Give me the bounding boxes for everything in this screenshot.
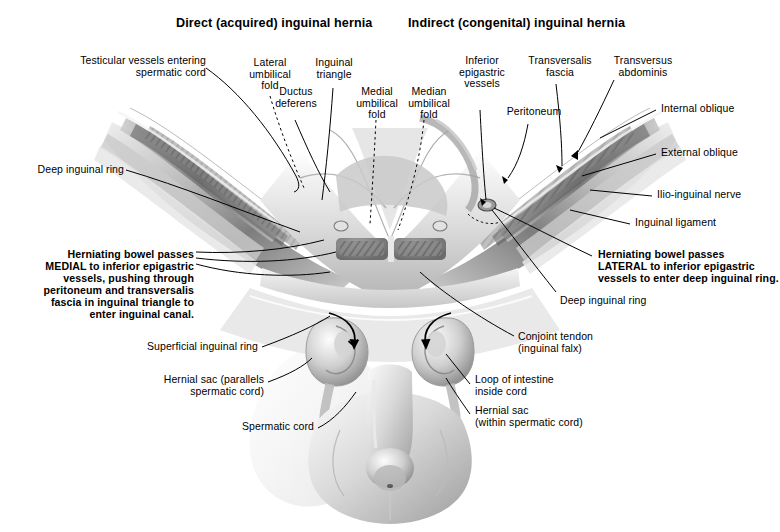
label-hernial-sac-within: Hernial sac (within spermatic cord) [475,405,615,428]
label-spermatic-cord: Spermatic cord [182,421,314,433]
title-indirect-hernia: Indirect (congenital) inguinal hernia [408,16,625,30]
label-superficial-inguinal-ring: Superficial inguinal ring [130,341,258,353]
label-inguinal-triangle: Inguinal triangle [296,57,372,80]
label-conjoint-tendon: Conjoint tendon (inguinal falx) [518,331,638,354]
label-transversus-abdominis: Transversus abdominis [600,55,686,78]
label-inferior-epigastric-vessels: Inferior epigastric vessels [443,55,521,90]
annotation-indirect-hernia: Herniating bowel passes LATERAL to infer… [598,248,778,284]
label-loop-of-intestine: Loop of intestine inside cord [475,374,607,397]
illustration-canvas: Direct (acquired) inguinal hernia Indire… [0,0,780,532]
rectus-abdominis-pair [336,236,446,262]
label-peritoneum: Peritoneum [496,106,572,118]
label-hernial-sac-parallels: Hernial sac (parallels spermatic cord) [138,374,264,397]
label-inguinal-ligament: Inguinal ligament [635,217,755,229]
label-deep-inguinal-ring-right: Deep inguinal ring [560,295,670,307]
title-direct-hernia: Direct (acquired) inguinal hernia [176,16,372,30]
label-ductus-deferens: Ductus deferens [258,86,334,109]
label-external-oblique: External oblique [661,147,771,159]
label-median-umbilical-fold: Median umbilical fold [392,86,466,121]
label-internal-oblique: Internal oblique [661,103,771,115]
annotation-direct-hernia: Herniating bowel passes MEDIAL to inferi… [20,248,194,321]
label-deep-inguinal-ring-left: Deep inguinal ring [22,164,124,176]
label-ilio-inguinal-nerve: Ilio-inguinal nerve [657,189,777,201]
label-transversalis-fascia: Transversalis fascia [518,55,602,78]
label-testicular-vessels: Testicular vessels entering spermatic co… [64,55,206,78]
